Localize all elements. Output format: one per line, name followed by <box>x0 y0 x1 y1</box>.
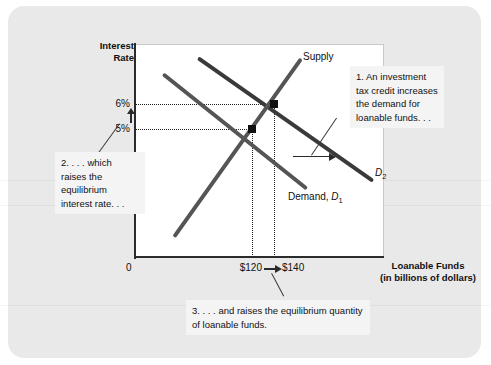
demand-d1-symbol: D <box>331 191 338 202</box>
x-axis <box>134 256 384 258</box>
guide-140 <box>274 104 275 257</box>
demand-d1-label: Demand, D1 <box>288 191 343 205</box>
equilibrium-point-new <box>270 100 278 108</box>
figure-page: Interest Rate Loanable Funds (in billion… <box>0 0 491 365</box>
quantity-increase-arrow-head <box>275 265 282 273</box>
callout-2: 2. . . . which raises the equilibrium in… <box>55 152 145 214</box>
demand-d2-subscript: 2 <box>382 172 386 181</box>
demand-shift-arrow-head <box>329 153 336 161</box>
origin-label: 0 <box>126 262 132 273</box>
demand-d2-label: D2 <box>375 167 386 181</box>
demand-d1-subscript: 1 <box>339 196 343 205</box>
y-axis-title-line2: Rate <box>78 52 134 64</box>
y-tick-6-percent: 6% <box>100 98 130 109</box>
x-axis-title-line2: (in billions of dollars) <box>367 272 489 284</box>
rate-increase-arrow-head <box>127 108 135 114</box>
x-axis-title: Loanable Funds (in billions of dollars) <box>367 260 489 284</box>
callout-3: 3. . . . and raises the equilibrium quan… <box>186 300 370 335</box>
x-tick-120: $120 <box>222 262 262 273</box>
demand-shift-arrow-shaft <box>293 156 331 157</box>
plot-top-edge <box>135 44 384 45</box>
y-axis-title: Interest Rate <box>78 40 134 64</box>
y-axis <box>134 43 136 259</box>
supply-label: Supply <box>303 51 334 62</box>
callout-1: 1. An investment tax credit increases th… <box>350 66 444 128</box>
x-axis-title-line1: Loanable Funds <box>367 260 489 272</box>
x-tick-140: $140 <box>282 262 322 273</box>
equilibrium-point-initial <box>248 125 256 133</box>
y-axis-title-line1: Interest <box>78 40 134 52</box>
demand-d1-text: Demand, <box>288 191 331 202</box>
